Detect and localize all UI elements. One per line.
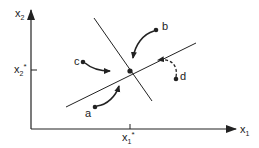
phase-diagram: x2 x1 x2* x1* b c a d: [0, 0, 259, 148]
trajectory-b-arrow: [133, 31, 154, 58]
trajectory-c-arrow: [85, 63, 110, 71]
x-axis-label: x1: [240, 123, 250, 137]
label-c: c: [74, 55, 80, 67]
trajectory-a-arrow: [97, 86, 119, 106]
y-axis-label: x2: [15, 7, 25, 21]
point-a: [93, 105, 98, 110]
point-d: [174, 77, 179, 82]
label-d: d: [180, 70, 186, 82]
trajectory-d-arrow: [158, 60, 176, 77]
label-a: a: [85, 107, 92, 119]
x2-star-label: x2*: [14, 62, 27, 77]
point-b: [154, 28, 159, 33]
label-b: b: [162, 20, 168, 32]
x1-star-label: x1*: [122, 130, 135, 145]
equilibrium-point: [127, 68, 132, 73]
